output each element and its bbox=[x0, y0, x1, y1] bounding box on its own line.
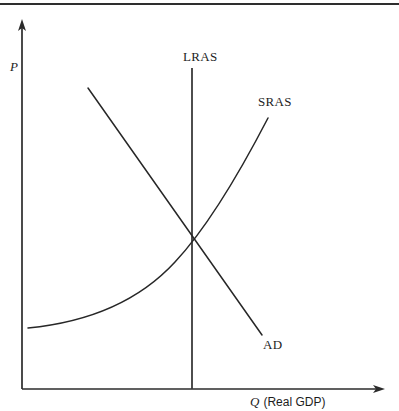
horizontal-axis-label: Q (Real GDP) bbox=[250, 393, 325, 409]
horizontal-axis-label-symbol: Q bbox=[250, 394, 259, 409]
vertical-axis-label: P bbox=[10, 60, 18, 73]
sras-label: SRAS bbox=[258, 95, 292, 108]
ad-label: AD bbox=[263, 338, 282, 351]
sras-curve bbox=[28, 118, 268, 328]
horizontal-axis-label-text: (Real GDP) bbox=[263, 395, 325, 409]
ad-curve bbox=[88, 88, 262, 335]
lras-label: LRAS bbox=[183, 50, 217, 63]
ad-as-diagram-figure: P LRAS SRAS AD Q (Real GDP) bbox=[0, 0, 399, 411]
